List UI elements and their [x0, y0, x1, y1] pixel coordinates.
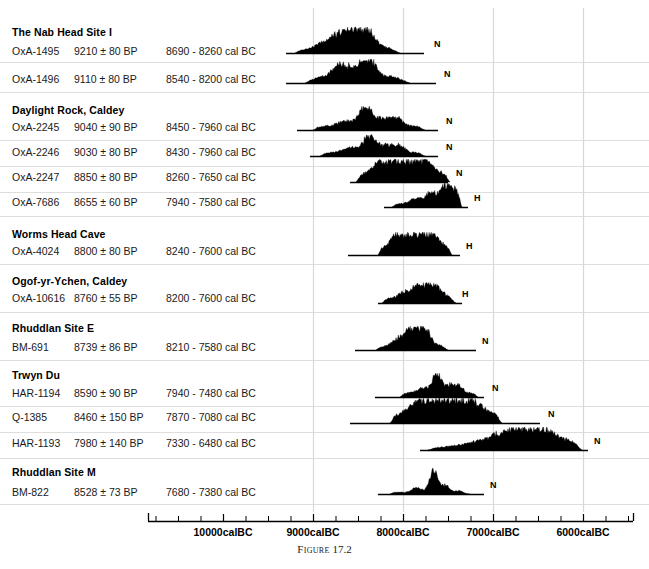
- caption-number: 17.2: [332, 543, 351, 555]
- date-distribution-bm-822: [378, 468, 484, 494]
- radiocarbon-calibration-figure: The Nab Head Site IOxA-14959210 ± 80 BP8…: [0, 0, 649, 569]
- distribution-canvas: [0, 0, 649, 569]
- date-distribution-har-1194: [375, 373, 484, 397]
- plot-area: [0, 0, 649, 569]
- probability-distribution: [390, 398, 502, 423]
- probability-distribution: [390, 468, 470, 494]
- date-distribution-oxa-2246: [310, 134, 438, 156]
- probability-distribution: [400, 373, 478, 397]
- probability-distribution: [313, 106, 425, 130]
- probability-distribution: [320, 134, 425, 156]
- date-distribution-oxa-10616: [378, 282, 462, 303]
- probability-distribution: [428, 427, 582, 450]
- date-distribution-oxa-2247: [350, 159, 450, 182]
- date-distribution-oxa-7686: [384, 183, 468, 207]
- probability-distribution: [382, 282, 456, 303]
- probability-distribution: [295, 27, 400, 53]
- figure-caption: Figure 17.2: [0, 543, 649, 555]
- x-axis: [148, 513, 634, 522]
- date-distribution-har-1193: [420, 427, 588, 450]
- date-distribution-bm-691: [355, 326, 476, 350]
- caption-label: Figure: [297, 543, 329, 555]
- date-distribution-oxa-2245: [297, 106, 438, 130]
- probability-distribution: [392, 183, 462, 207]
- probability-distribution: [356, 159, 450, 182]
- probability-distribution: [378, 232, 452, 255]
- date-distribution-q-1385: [350, 398, 540, 423]
- probability-distribution: [376, 326, 448, 350]
